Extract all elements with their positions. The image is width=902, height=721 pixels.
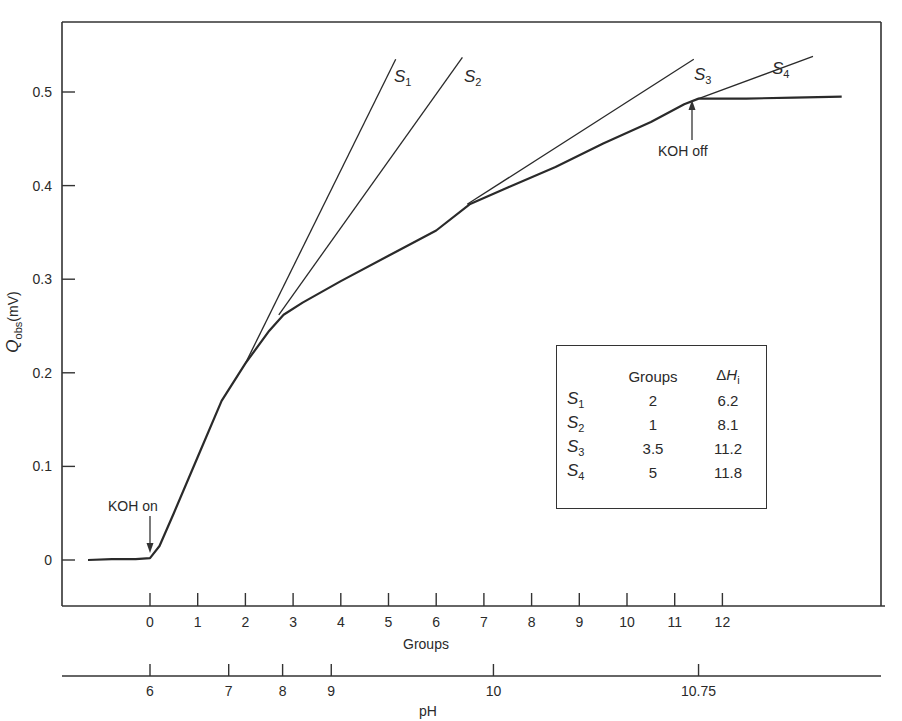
- slope-line-s1: [245, 59, 395, 363]
- x-tick-label: 7: [480, 614, 488, 630]
- x-tick-label: 12: [715, 614, 731, 630]
- y-axis-ticks: [62, 92, 75, 560]
- x-tick-label: 8: [528, 614, 536, 630]
- legend-header-row: Groups ΔHi: [567, 364, 763, 388]
- x-tick-label: 6: [432, 614, 440, 630]
- y-tick-label: 0: [44, 552, 52, 568]
- x-tick-label: 3: [289, 614, 297, 630]
- x-axis-label: Groups: [403, 636, 449, 652]
- s2-label: S2: [464, 67, 481, 88]
- legend-table-box: Groups ΔHi S1 2 6.2 S2 1 8.1 S3 3.5 11.2…: [556, 345, 767, 509]
- x-axis-tick-labels: 0123456789101112: [146, 614, 730, 630]
- x-tick-label: 2: [242, 614, 250, 630]
- y-tick-label: 0.1: [33, 458, 53, 474]
- x-tick-label: 10: [619, 614, 635, 630]
- legend-row: S4 5 11.8: [567, 460, 763, 484]
- legend-header-groups: Groups: [613, 364, 693, 388]
- ph-tick-label: 7: [225, 683, 233, 699]
- legend-row: S3 3.5 11.2: [567, 436, 763, 460]
- legend-row: S1 2 6.2: [567, 388, 763, 412]
- s1-label: S1: [394, 67, 411, 88]
- y-tick-label: 0.2: [33, 365, 53, 381]
- legend-header-dh: ΔHi: [693, 364, 763, 388]
- s3-label: S3: [694, 65, 711, 86]
- y-axis-tick-labels: 00.10.20.30.40.5: [33, 84, 53, 568]
- x-tick-label: 11: [667, 614, 682, 630]
- y-axis-label: Qobs(mV): [3, 291, 24, 352]
- ph-tick-label: 9: [327, 683, 335, 699]
- slope-line-s4: [699, 56, 813, 98]
- y-tick-label: 0.3: [33, 271, 53, 287]
- koh-off-annotation: KOH off: [658, 143, 708, 159]
- koh-off-arrow-icon: [689, 100, 696, 140]
- ph-tick-label: 10: [486, 683, 502, 699]
- legend-row: S2 1 8.1: [567, 412, 763, 436]
- y-tick-label: 0.5: [33, 84, 53, 100]
- x-tick-label: 4: [337, 614, 345, 630]
- x-tick-label: 0: [146, 614, 154, 630]
- s4-label: S4: [772, 59, 789, 80]
- ph-tick-label: 8: [279, 683, 287, 699]
- ph-axis-tick-labels: 67891010.75: [146, 683, 716, 699]
- ph-tick-label: 6: [146, 683, 154, 699]
- x-tick-label: 5: [385, 614, 393, 630]
- slope-line-s3: [467, 59, 694, 204]
- plot-frame: [62, 22, 885, 606]
- y-tick-label: 0.4: [33, 178, 53, 194]
- slope-line-s2: [279, 57, 463, 314]
- svg-text:Qobs(mV): Qobs(mV): [3, 291, 24, 352]
- koh-on-annotation: KOH on: [108, 498, 158, 514]
- legend-table: Groups ΔHi S1 2 6.2 S2 1 8.1 S3 3.5 11.2…: [567, 364, 763, 484]
- x-tick-label: 9: [575, 614, 583, 630]
- ph-axis-label: pH: [419, 703, 437, 719]
- ph-axis-ticks: [150, 664, 699, 676]
- x-axis-ticks: [150, 593, 722, 606]
- x-tick-label: 1: [194, 614, 202, 630]
- ph-tick-label: 10.75: [681, 683, 716, 699]
- koh-on-arrow-icon: [147, 516, 154, 553]
